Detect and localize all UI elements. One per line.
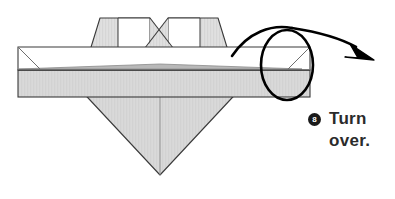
origami-diagram	[0, 0, 395, 199]
band-upper-strip	[18, 47, 310, 70]
instruction-caption: 8 Turn over.	[308, 108, 392, 152]
step-number-badge: 8	[308, 113, 321, 126]
origami-instruction-page: 8 Turn over.	[0, 0, 395, 199]
caption-line-2: over.	[308, 130, 370, 152]
caption-text-line1: Turn	[329, 109, 367, 129]
arrowhead-icon	[345, 44, 374, 60]
caption-line-1: 8 Turn	[308, 108, 367, 130]
caption-text-line2: over.	[329, 131, 370, 151]
